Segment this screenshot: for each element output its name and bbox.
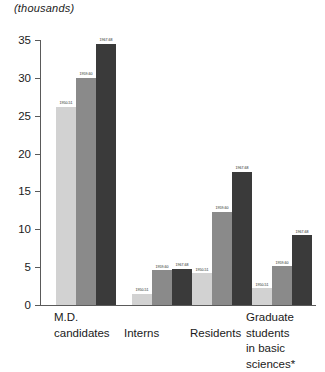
bar: 1959-60 [76, 78, 96, 305]
bar-series-label: 1967-68 [235, 167, 248, 171]
x-axis-line [40, 305, 316, 306]
y-tick-mark [35, 305, 41, 306]
bar-series-label: 1959-60 [215, 207, 228, 211]
y-tick-label: 25 [18, 110, 31, 122]
bar-series-label: 1967-68 [99, 39, 112, 43]
bar: 1959-60 [272, 266, 292, 305]
bar-group: 1950-511959-601967-68 [192, 40, 252, 305]
y-tick-label: 30 [18, 72, 31, 84]
bar-series-label: 1959-60 [275, 262, 288, 266]
y-tick-label: 5 [25, 261, 31, 273]
chart-unit-title: (thousands) [14, 2, 74, 14]
y-tick-label: 0 [25, 299, 31, 311]
category-label: Residents [190, 326, 241, 342]
bar: 1950-51 [252, 288, 272, 305]
bar-group: 1950-511959-601967-68 [56, 40, 116, 305]
bar-series-label: 1950-51 [255, 284, 268, 288]
bar-series-label: 1950-51 [195, 269, 208, 273]
bar-group: 1950-511959-601967-68 [132, 40, 192, 305]
y-tick-label: 15 [18, 185, 31, 197]
bar: 1967-68 [232, 172, 252, 305]
bar: 1950-51 [132, 294, 152, 305]
bar-groups: 1950-511959-601967-681950-511959-601967-… [40, 40, 316, 305]
plot-area: 05101520253035 1950-511959-601967-681950… [40, 40, 316, 305]
y-tick-label: 20 [18, 148, 31, 160]
bar: 1950-51 [56, 107, 76, 305]
bar-series-label: 1967-68 [175, 264, 188, 268]
y-tick-label: 35 [18, 34, 31, 46]
bar-series-label: 1959-60 [79, 73, 92, 77]
category-label: Graduate students in basic sciences* [246, 310, 325, 372]
bar: 1967-68 [172, 269, 192, 305]
category-label: Interns [124, 326, 159, 342]
bar-series-label: 1959-60 [155, 266, 168, 270]
bar: 1959-60 [212, 212, 232, 305]
bar: 1959-60 [152, 270, 172, 305]
bar-group: 1950-511959-601967-68 [252, 40, 312, 305]
category-labels: M.D. candidatesInternsResidentsGraduate … [40, 310, 325, 359]
bar: 1950-51 [192, 273, 212, 305]
bar-series-label: 1950-51 [135, 289, 148, 293]
bar: 1967-68 [292, 235, 312, 305]
y-tick-label: 10 [18, 223, 31, 235]
category-label: M.D. candidates [54, 310, 110, 341]
bar-series-label: 1950-51 [59, 102, 72, 106]
bar: 1967-68 [96, 44, 116, 305]
bar-series-label: 1967-68 [295, 231, 308, 235]
